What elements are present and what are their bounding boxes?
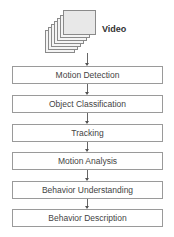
arrow-step-2-to-3 — [87, 113, 88, 123]
step-object-classification: Object Classification — [12, 95, 163, 113]
step-label: Motion Analysis — [58, 156, 117, 166]
arrow-video-to-motion-detection — [87, 53, 88, 65]
step-label: Behavior Description — [48, 213, 126, 223]
step-behavior-understanding: Behavior Understanding — [12, 181, 163, 199]
step-motion-detection: Motion Detection — [12, 66, 163, 84]
step-label: Tracking — [71, 128, 103, 138]
step-motion-analysis: Motion Analysis — [12, 152, 163, 170]
step-tracking: Tracking — [12, 124, 163, 142]
arrow-step-1-to-2 — [87, 84, 88, 94]
arrow-step-5-to-6 — [87, 199, 88, 208]
arrow-step-4-to-5 — [87, 170, 88, 180]
step-label: Object Classification — [49, 99, 126, 109]
arrow-step-3-to-4 — [87, 142, 88, 151]
step-label: Motion Detection — [56, 70, 120, 80]
step-behavior-description: Behavior Description — [12, 209, 163, 227]
step-label: Behavior Understanding — [42, 185, 133, 195]
video-label: Video — [102, 24, 126, 34]
